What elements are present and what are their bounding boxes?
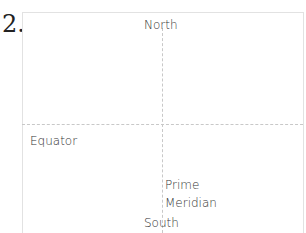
- prime-meridian-line: [162, 28, 163, 233]
- north-label: North: [144, 16, 178, 34]
- prime-meridian-label-line2: Meridian: [165, 194, 217, 212]
- prime-meridian-label: Prime Meridian: [165, 176, 217, 212]
- equator-label: Equator: [30, 132, 77, 150]
- map-grid-frame: [22, 12, 304, 233]
- south-label: South: [144, 214, 179, 232]
- equator-line: [22, 124, 303, 125]
- prime-meridian-label-line1: Prime: [165, 176, 217, 194]
